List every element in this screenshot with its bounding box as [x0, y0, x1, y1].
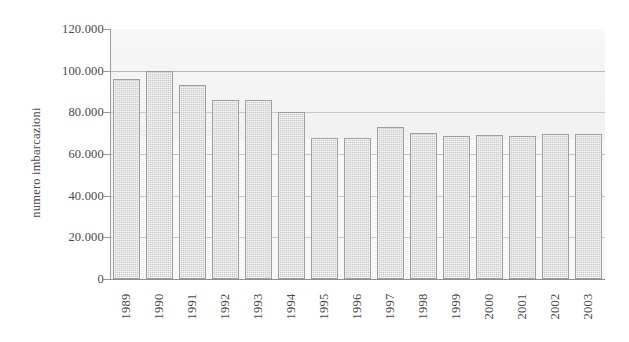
y-axis-tick-mark [103, 237, 110, 238]
bar [278, 112, 304, 279]
x-axis-tick-label: 2001 [506, 281, 539, 339]
x-axis-tick-label-text: 2001 [515, 293, 530, 319]
x-axis-tick-label: 1996 [341, 281, 374, 339]
x-axis-tick-label-text: 1990 [152, 293, 167, 319]
x-axis-tick-label: 1989 [110, 281, 143, 339]
x-axis-tick-label: 1995 [308, 281, 341, 339]
y-axis-title-label: numero imbarcazioni [29, 107, 44, 217]
bar-chart-figure: numero imbarcazioni 020.00040.00060.0008… [0, 0, 629, 342]
y-axis-tick-label: 40.000 [68, 188, 104, 203]
x-axis-tick-label: 2002 [539, 281, 572, 339]
x-axis-tick-labels: 1989199019911992199319941995199619971998… [110, 281, 605, 342]
bar [113, 79, 139, 279]
x-axis-tick-label-text: 1991 [185, 293, 200, 319]
bar [311, 138, 337, 279]
x-axis-tick-label-text: 1997 [383, 293, 398, 319]
x-axis-tick-label-text: 1998 [416, 293, 431, 319]
x-axis-tick-label: 2003 [572, 281, 605, 339]
bar [509, 136, 535, 279]
x-axis-tick-label: 1992 [209, 281, 242, 339]
y-axis-tick-mark [103, 196, 110, 197]
y-axis-tick-mark [103, 279, 110, 280]
bar [443, 136, 469, 279]
bar [212, 100, 238, 279]
y-axis-tick-label: 60.000 [68, 147, 104, 162]
y-axis-tick-mark [103, 29, 110, 30]
y-axis-tick-labels: 020.00040.00060.00080.000100.000120.000 [48, 0, 108, 342]
y-axis-tick-mark [103, 71, 110, 72]
x-axis-tick-label: 1997 [374, 281, 407, 339]
x-axis-tick-label-text: 1992 [218, 293, 233, 319]
bar [575, 134, 601, 279]
bar [476, 135, 502, 279]
x-axis-tick-label-text: 1993 [251, 293, 266, 319]
bar [245, 100, 271, 279]
bar [542, 134, 568, 279]
x-axis-tick-label-text: 2003 [581, 293, 596, 319]
y-axis-tick-label: 20.000 [68, 230, 104, 245]
bar [146, 71, 172, 279]
bars-container [110, 29, 605, 279]
x-axis-tick-label: 1998 [407, 281, 440, 339]
y-axis-tick-label: 120.000 [62, 22, 104, 37]
x-axis-tick-label-text: 1995 [317, 293, 332, 319]
x-axis-tick-label: 1991 [176, 281, 209, 339]
x-axis-tick-label-text: 1989 [119, 293, 134, 319]
y-axis-tick-label: 80.000 [68, 105, 104, 120]
y-axis-tick-mark [103, 112, 110, 113]
bar [377, 127, 403, 279]
x-axis-tick-label-text: 1994 [284, 293, 299, 319]
bar [344, 138, 370, 279]
bar [179, 85, 205, 279]
x-axis-tick-label-text: 2002 [548, 293, 563, 319]
x-axis-tick-label: 1990 [143, 281, 176, 339]
y-axis-tick-label: 100.000 [62, 63, 104, 78]
x-axis-tick-label-text: 2000 [482, 293, 497, 319]
y-axis-tick-mark [103, 154, 110, 155]
bar [410, 133, 436, 279]
x-axis-line [110, 279, 605, 280]
x-axis-tick-label: 1993 [242, 281, 275, 339]
x-axis-tick-label: 2000 [473, 281, 506, 339]
x-axis-tick-label-text: 1996 [350, 293, 365, 319]
x-axis-tick-label: 1994 [275, 281, 308, 339]
x-axis-tick-label: 1999 [440, 281, 473, 339]
y-axis-title: numero imbarcazioni [26, 62, 46, 262]
x-axis-tick-label-text: 1999 [449, 293, 464, 319]
